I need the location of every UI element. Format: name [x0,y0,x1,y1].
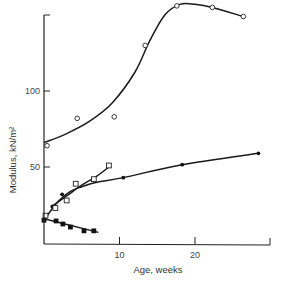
x-axis [44,244,270,245]
data-point-open-circle [45,143,50,148]
plot-area [42,3,261,233]
data-point-filled-square [82,228,87,233]
data-point-filled-square [91,228,96,233]
data-point-open-circle [175,4,180,9]
data-point-open-circle [241,14,246,19]
ticks: 102050100 [25,86,200,260]
axes [44,15,270,245]
data-point-filled-square [60,222,65,227]
data-point-filled-circle [121,176,125,180]
data-point-open-circle [112,115,117,120]
data-point-filled-square [54,219,59,224]
data-point-open-square [107,163,112,168]
y-tick-label: 50 [30,162,40,172]
data-point-open-square [73,181,78,186]
series-line [44,3,243,142]
data-point-filled-circle [180,163,184,167]
data-point-open-circle [210,5,215,10]
x-tick-label: 10 [114,250,124,260]
data-point-open-square [64,198,69,203]
x-axis-title: Age, weeks [133,264,182,275]
data-point-open-square [91,177,96,182]
series-filled-squares [42,218,99,233]
data-point-open-square [53,206,58,211]
series-open-circles [44,3,246,148]
data-point-open-circle [143,43,148,48]
data-point-open-circle [75,116,80,121]
chart-canvas: 102050100 Age, weeks Modulus, kN/m² [0,0,287,285]
data-point-filled-square [68,225,73,230]
y-tick-label: 100 [25,86,40,96]
x-tick-label: 20 [190,250,200,260]
y-axis-title: Modulus, kN/m² [7,127,18,194]
data-point-filled-circle [60,192,64,196]
data-point-filled-circle [257,151,261,155]
series-open-squares [43,163,111,218]
series-line [52,167,109,207]
